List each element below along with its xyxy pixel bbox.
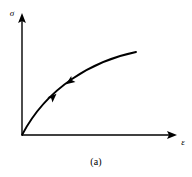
stress-axis-label: σ	[10, 8, 15, 18]
stress-strain-plot: σ ε	[0, 0, 192, 177]
stress-axis	[18, 13, 26, 135]
figure-container: σ ε (a)	[0, 0, 192, 177]
stress-strain-curve	[22, 52, 136, 135]
strain-axis-label: ε	[181, 137, 185, 147]
figure-caption: (a)	[0, 156, 192, 167]
strain-axis	[22, 131, 177, 139]
